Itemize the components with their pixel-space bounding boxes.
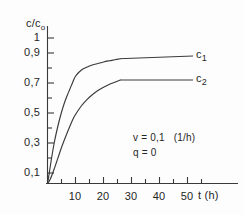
x-tick-label-30: 30: [120, 191, 142, 202]
curve-label-c2: c2: [196, 73, 207, 87]
data-curve-c2: [48, 80, 121, 184]
y-tick-label-0.7: 0,7: [10, 77, 40, 88]
annotation-q: q = 0: [133, 148, 157, 158]
annotation-velocity: v = 0,1 (1/h): [133, 133, 195, 143]
x-tick-label-50: 50: [176, 191, 198, 202]
y-tick-label-1: 1: [10, 32, 40, 43]
y-tick-label-0.5: 0,5: [10, 107, 40, 118]
x-axis-label: t (h): [198, 190, 219, 201]
chart-figure: c/co 1 0,9 0,7 0,5 0,3 0,1 10 20 30 40 5…: [0, 0, 244, 215]
y-axis-label-subscript: o: [41, 23, 46, 32]
axis-lines: [46, 26, 238, 184]
x-axis-ticks: [62, 177, 202, 184]
x-tick-label-10: 10: [64, 191, 86, 202]
curve-label-c2-subscript: 2: [202, 77, 207, 87]
x-tick-label-40: 40: [148, 191, 170, 202]
leader-line-c1: [120, 56, 193, 59]
y-tick-label-0.3: 0,3: [10, 137, 40, 148]
curve-label-c1: c1: [196, 49, 207, 63]
y-axis-label-base: c/c: [26, 17, 41, 29]
x-tick-label-20: 20: [92, 191, 114, 202]
curve-label-c1-subscript: 1: [202, 53, 207, 63]
y-tick-label-0.9: 0,9: [10, 47, 40, 58]
data-curve-c1: [48, 59, 121, 184]
y-tick-label-0.1: 0,1: [10, 167, 40, 178]
